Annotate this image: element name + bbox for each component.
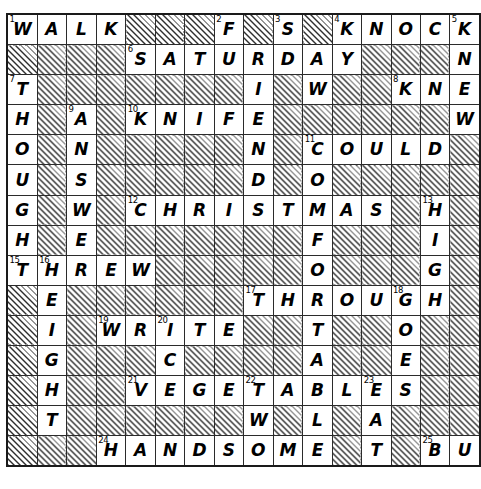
- crossword-cell[interactable]: 4K: [332, 14, 361, 45]
- crossword-cell[interactable]: 19W: [96, 315, 126, 345]
- crossword-cell[interactable]: F: [214, 105, 243, 135]
- crossword-cell[interactable]: 5K: [450, 14, 480, 45]
- crossword-cell[interactable]: 13H: [420, 195, 449, 225]
- crossword-cell[interactable]: Y: [332, 45, 361, 75]
- crossword-cell[interactable]: E: [214, 315, 243, 345]
- crossword-cell[interactable]: L: [67, 14, 97, 45]
- crossword-cell[interactable]: K: [96, 14, 126, 45]
- crossword-cell[interactable]: U: [450, 436, 480, 467]
- crossword-cell[interactable]: S: [67, 165, 97, 195]
- crossword-cell[interactable]: R: [185, 195, 214, 225]
- crossword-cell[interactable]: B: [303, 376, 333, 406]
- crossword-cell[interactable]: T: [303, 315, 333, 345]
- crossword-cell[interactable]: C: [420, 14, 449, 45]
- crossword-cell[interactable]: D: [185, 436, 214, 467]
- crossword-cell[interactable]: N: [243, 135, 273, 165]
- crossword-cell[interactable]: L: [303, 406, 333, 436]
- crossword-cell[interactable]: E: [155, 376, 184, 406]
- crossword-cell[interactable]: O: [303, 255, 333, 285]
- crossword-cell[interactable]: U: [362, 135, 391, 165]
- crossword-cell[interactable]: M: [273, 436, 303, 467]
- crossword-cell[interactable]: 25B: [420, 436, 449, 467]
- crossword-cell[interactable]: 22T: [243, 376, 273, 406]
- crossword-cell[interactable]: 15T: [7, 255, 37, 285]
- crossword-cell[interactable]: A: [303, 346, 333, 376]
- crossword-cell[interactable]: E: [214, 376, 243, 406]
- crossword-cell[interactable]: T: [37, 406, 66, 436]
- crossword-cell[interactable]: W: [126, 255, 156, 285]
- crossword-cell[interactable]: A: [155, 45, 184, 75]
- crossword-cell[interactable]: H: [7, 225, 37, 255]
- crossword-cell[interactable]: H: [37, 376, 66, 406]
- crossword-cell[interactable]: S: [214, 436, 243, 467]
- crossword-cell[interactable]: E: [37, 285, 66, 315]
- crossword-cell[interactable]: 3S: [273, 14, 303, 45]
- crossword-cell[interactable]: T: [185, 45, 214, 75]
- crossword-cell[interactable]: R: [303, 285, 333, 315]
- crossword-cell[interactable]: 7T: [7, 75, 37, 105]
- crossword-cell[interactable]: 16H: [37, 255, 66, 285]
- crossword-cell[interactable]: C: [155, 346, 184, 376]
- crossword-cell[interactable]: U: [214, 45, 243, 75]
- crossword-cell[interactable]: O: [332, 135, 361, 165]
- crossword-cell[interactable]: G: [420, 255, 449, 285]
- crossword-cell[interactable]: 11C: [303, 135, 333, 165]
- crossword-cell[interactable]: 20I: [155, 315, 184, 345]
- crossword-cell[interactable]: W: [243, 406, 273, 436]
- crossword-cell[interactable]: 17T: [243, 285, 273, 315]
- crossword-cell[interactable]: S: [243, 195, 273, 225]
- crossword-cell[interactable]: A: [303, 45, 333, 75]
- crossword-cell[interactable]: D: [273, 45, 303, 75]
- crossword-cell[interactable]: H: [7, 105, 37, 135]
- crossword-cell[interactable]: L: [391, 135, 420, 165]
- crossword-cell[interactable]: E: [450, 75, 480, 105]
- crossword-cell[interactable]: E: [67, 225, 97, 255]
- crossword-cell[interactable]: E: [243, 105, 273, 135]
- crossword-cell[interactable]: W: [450, 105, 480, 135]
- crossword-cell[interactable]: I: [243, 75, 273, 105]
- crossword-cell[interactable]: A: [362, 406, 391, 436]
- crossword-cell[interactable]: 10K: [126, 105, 156, 135]
- crossword-grid[interactable]: 1WALK2F3S4KNOC5K6SATURDAYN7TIW8KNEH9A10K…: [6, 13, 481, 467]
- crossword-cell[interactable]: R: [126, 315, 156, 345]
- crossword-cell[interactable]: S: [391, 376, 420, 406]
- crossword-cell[interactable]: I: [185, 105, 214, 135]
- crossword-cell[interactable]: G: [7, 195, 37, 225]
- crossword-cell[interactable]: W: [303, 75, 333, 105]
- crossword-cell[interactable]: E: [303, 436, 333, 467]
- crossword-cell[interactable]: 9A: [67, 105, 97, 135]
- crossword-cell[interactable]: 23E: [362, 376, 391, 406]
- crossword-cell[interactable]: I: [420, 225, 449, 255]
- crossword-cell[interactable]: H: [420, 285, 449, 315]
- crossword-cell[interactable]: G: [185, 376, 214, 406]
- crossword-cell[interactable]: N: [362, 14, 391, 45]
- crossword-cell[interactable]: R: [67, 255, 97, 285]
- crossword-cell[interactable]: M: [303, 195, 333, 225]
- crossword-cell[interactable]: O: [303, 165, 333, 195]
- crossword-cell[interactable]: 18G: [391, 285, 420, 315]
- crossword-cell[interactable]: I: [37, 315, 66, 345]
- crossword-cell[interactable]: G: [37, 346, 66, 376]
- crossword-cell[interactable]: E: [96, 255, 126, 285]
- crossword-cell[interactable]: H: [273, 285, 303, 315]
- crossword-cell[interactable]: O: [391, 14, 420, 45]
- crossword-cell[interactable]: D: [420, 135, 449, 165]
- crossword-cell[interactable]: O: [243, 436, 273, 467]
- crossword-cell[interactable]: T: [273, 195, 303, 225]
- crossword-cell[interactable]: R: [243, 45, 273, 75]
- crossword-cell[interactable]: I: [214, 195, 243, 225]
- crossword-cell[interactable]: A: [332, 195, 361, 225]
- crossword-cell[interactable]: T: [362, 436, 391, 467]
- crossword-cell[interactable]: O: [332, 285, 361, 315]
- crossword-cell[interactable]: 24H: [96, 436, 126, 467]
- crossword-cell[interactable]: T: [185, 315, 214, 345]
- crossword-cell[interactable]: E: [391, 346, 420, 376]
- crossword-cell[interactable]: W: [67, 195, 97, 225]
- crossword-cell[interactable]: N: [67, 135, 97, 165]
- crossword-cell[interactable]: N: [155, 105, 184, 135]
- crossword-cell[interactable]: 6S: [126, 45, 156, 75]
- crossword-cell[interactable]: 21V: [126, 376, 156, 406]
- crossword-cell[interactable]: N: [450, 45, 480, 75]
- crossword-cell[interactable]: O: [391, 315, 420, 345]
- crossword-cell[interactable]: L: [332, 376, 361, 406]
